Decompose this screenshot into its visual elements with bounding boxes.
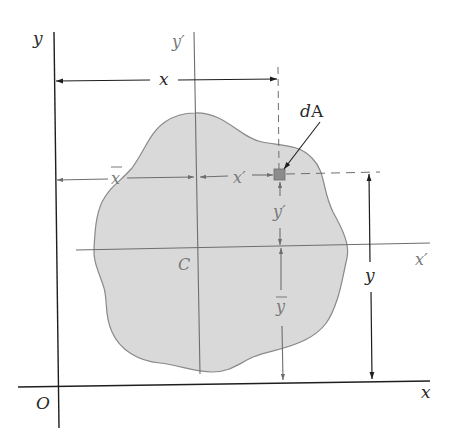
y-distance-label: y [364,265,375,285]
area-element-dA [274,169,285,180]
y-distance-arrow-up [369,174,370,262]
element-label: dA [300,101,324,121]
y-prime-distance-label: y′ [272,202,286,221]
y-prime-axis-label: y′ [171,32,185,51]
x-bar-label: x [111,169,120,188]
element-label-d: d [300,101,311,121]
x-axis-label: x [421,382,431,402]
y-distance-arrow-down [371,292,372,379]
x-distance-label: x [159,69,169,89]
x-bar-arrow-left [57,179,108,180]
element-label-A: A [310,101,324,121]
x-distance-arrow-left [56,80,150,81]
origin-label: O [36,393,50,413]
centroidal-axes-diagram: y y′ x dA x x′ y′ C y x′ y x O [0,0,449,446]
centroid-label: C [178,255,190,274]
x-prime-axis-label: x′ [415,250,428,269]
y-bar-label: y [275,297,286,316]
y-axis-label: y [32,28,43,48]
x-distance-arrow-right [178,79,277,80]
plane-area-shape [94,113,348,372]
x-prime-distance-label: x′ [233,168,246,187]
y-axis-line [54,32,59,428]
x-axis-line [18,381,430,387]
